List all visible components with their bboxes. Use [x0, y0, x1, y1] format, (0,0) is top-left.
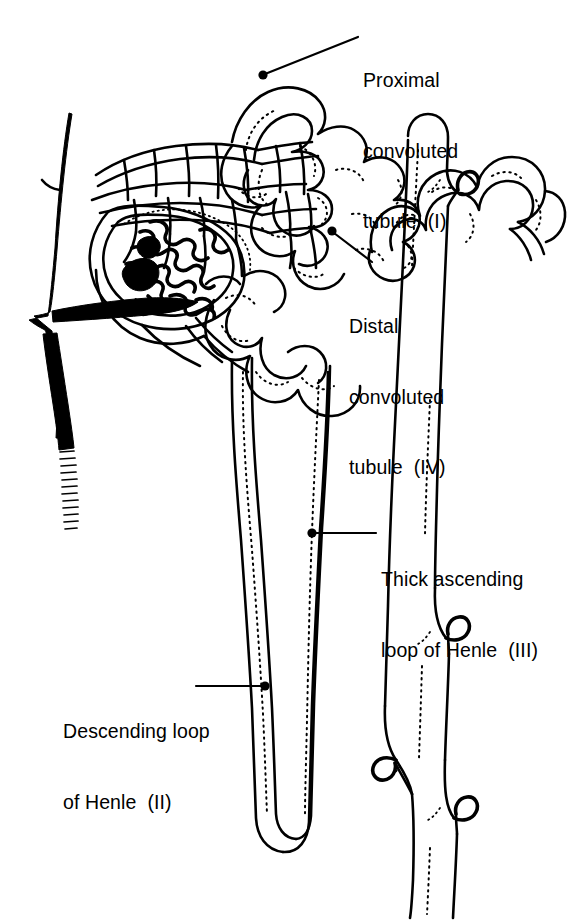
label-distal-line3: tubule (IV) [349, 456, 446, 480]
loop-of-henle [232, 358, 330, 852]
label-proximal-line1: Proximal [363, 69, 458, 93]
label-distal-line1: Distal [349, 315, 446, 339]
label-thick-line2: loop of Henle (III) [381, 639, 538, 663]
nephron-diagram: .ln { fill:none; stroke:#000; stroke-wid… [0, 0, 576, 921]
label-proximal-convoluted-tubule: Proximal convoluted tubule (I) [363, 22, 458, 281]
label-distal-convoluted-tubule: Distal convoluted tubule (IV) [349, 268, 446, 527]
label-descending-loop: Descending loop of Henle (II) [63, 673, 210, 861]
label-distal-line2: convoluted [349, 386, 446, 410]
renal-arteriole [29, 113, 198, 529]
proximal-anchor-dot [258, 70, 267, 79]
label-thick-line1: Thick ascending [381, 568, 538, 592]
label-thick-ascending-loop: Thick ascending loop of Henle (III) [381, 521, 538, 709]
arteriole-striations [60, 451, 78, 529]
label-descending-line2: of Henle (II) [63, 791, 210, 815]
label-proximal-line2: convoluted [363, 140, 458, 164]
proximal-leader [265, 37, 358, 74]
label-descending-line1: Descending loop [63, 720, 210, 744]
label-proximal-line3: tubule (I) [363, 210, 458, 234]
